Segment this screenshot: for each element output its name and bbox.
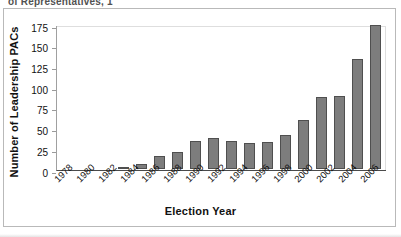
y-axis-title-label: Number of Leadership PACs xyxy=(8,27,20,178)
x-axis-title: Election Year xyxy=(0,205,401,217)
bar-slot xyxy=(240,26,258,169)
bar-slot xyxy=(367,26,385,169)
y-axis-tick-label: 175 xyxy=(31,22,48,33)
bar-slot xyxy=(132,26,150,169)
clipped-header-text: of Representatives, 1 xyxy=(8,0,208,7)
bar-slot xyxy=(150,26,168,169)
bar-slot xyxy=(168,26,186,169)
x-axis-tick-labels: 1978198019821984198619881990199219941996… xyxy=(57,173,385,207)
y-axis-tick-label: 0 xyxy=(42,167,48,178)
bar-slot xyxy=(277,26,295,169)
plot-area xyxy=(56,26,386,171)
x-tick-slot: 2006 xyxy=(363,173,385,207)
bar-slot xyxy=(114,26,132,169)
bar[interactable] xyxy=(316,97,327,169)
bar-slot xyxy=(295,26,313,169)
bar[interactable] xyxy=(334,96,345,169)
bar-slot xyxy=(259,26,277,169)
y-axis-tick-label: 100 xyxy=(31,84,48,95)
y-axis-tick-label: 75 xyxy=(37,105,48,116)
bar-slot xyxy=(186,26,204,169)
bar[interactable] xyxy=(370,25,381,169)
bar-slot xyxy=(204,26,222,169)
bar-slot xyxy=(331,26,349,169)
bar-slot xyxy=(313,26,331,169)
y-axis-title: Number of Leadership PACs xyxy=(4,14,24,190)
page-edge-shadow xyxy=(0,234,401,237)
y-axis-tick-label: 150 xyxy=(31,43,48,54)
y-axis-tick-label: 125 xyxy=(31,63,48,74)
y-axis-tick-labels: 0255075100125150175 xyxy=(24,24,51,176)
y-axis-tick-label: 25 xyxy=(37,146,48,157)
bar-series xyxy=(114,26,385,169)
bar-slot xyxy=(222,26,240,169)
bar-slot xyxy=(349,26,367,169)
bar[interactable] xyxy=(352,59,363,169)
y-axis-tick-label: 50 xyxy=(37,126,48,137)
bar[interactable] xyxy=(226,141,237,169)
